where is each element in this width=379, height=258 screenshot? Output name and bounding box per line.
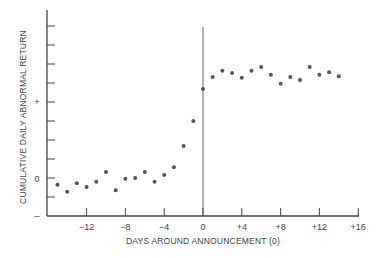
data-point bbox=[288, 75, 292, 79]
y-label-zero: 0 bbox=[34, 174, 39, 184]
data-point bbox=[75, 181, 79, 185]
data-point bbox=[153, 180, 157, 184]
data-point bbox=[327, 70, 331, 74]
x-tick-label: −12 bbox=[79, 222, 94, 232]
data-point bbox=[114, 188, 118, 192]
data-point bbox=[123, 177, 127, 181]
data-point bbox=[337, 74, 341, 78]
data-point bbox=[220, 69, 224, 73]
data-point bbox=[56, 183, 60, 187]
x-tick-label: −8 bbox=[120, 222, 130, 232]
data-point bbox=[162, 173, 166, 177]
data-point bbox=[269, 73, 273, 77]
data-point bbox=[259, 65, 263, 69]
data-point bbox=[65, 190, 69, 194]
data-point bbox=[201, 87, 205, 91]
data-point bbox=[85, 185, 89, 189]
x-tick-label: +16 bbox=[351, 222, 366, 232]
data-point bbox=[182, 144, 186, 148]
data-point bbox=[240, 76, 244, 80]
x-axis-title: DAYS AROUND ANNOUNCEMENT (0) bbox=[126, 236, 280, 246]
x-tick-label: +8 bbox=[275, 222, 285, 232]
x-tick-label: 0 bbox=[200, 222, 205, 232]
scatter-chart: + 0 – −12−8−40+4+8+12+16 DAYS AROUND ANN… bbox=[0, 0, 379, 258]
x-tick-label: +4 bbox=[237, 222, 247, 232]
data-point bbox=[298, 78, 302, 82]
data-point bbox=[317, 73, 321, 77]
data-point bbox=[104, 170, 108, 174]
data-point bbox=[250, 69, 254, 73]
y-axis-ticks bbox=[47, 26, 55, 197]
y-label-plus: + bbox=[34, 97, 39, 107]
x-tick-label: −4 bbox=[159, 222, 169, 232]
x-tick-label: +12 bbox=[312, 222, 327, 232]
data-point bbox=[308, 65, 312, 69]
y-axis-labels: + 0 – bbox=[34, 97, 39, 221]
data-point bbox=[191, 119, 195, 123]
data-point bbox=[143, 170, 147, 174]
data-point bbox=[230, 71, 234, 75]
data-point bbox=[94, 180, 98, 184]
data-point bbox=[279, 82, 283, 86]
data-points bbox=[56, 65, 341, 194]
y-axis-title: CUMULATIVE DAILY ABNORMAL RETURN bbox=[18, 30, 28, 204]
data-point bbox=[172, 165, 176, 169]
x-axis-tick-labels: −12−8−40+4+8+12+16 bbox=[79, 222, 366, 232]
axes bbox=[47, 10, 359, 216]
data-point bbox=[133, 176, 137, 180]
x-axis-ticks bbox=[87, 208, 359, 216]
y-label-minus: – bbox=[34, 211, 39, 221]
data-point bbox=[211, 75, 215, 79]
